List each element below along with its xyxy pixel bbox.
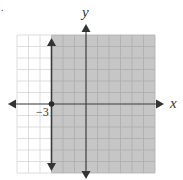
x-axis-label: x: [170, 96, 177, 111]
y-axis-down-arrow-icon: [82, 171, 91, 179]
y-axis-label: y: [82, 5, 89, 20]
point-neg3-0: [49, 101, 55, 107]
y-axis-up-arrow-icon: [82, 24, 91, 32]
x-axis-right-arrow-icon: [156, 100, 164, 109]
x-axis-left-arrow-icon: [8, 100, 16, 109]
tick-label-neg3: −3: [36, 106, 49, 118]
coordinate-plane: [0, 0, 183, 180]
